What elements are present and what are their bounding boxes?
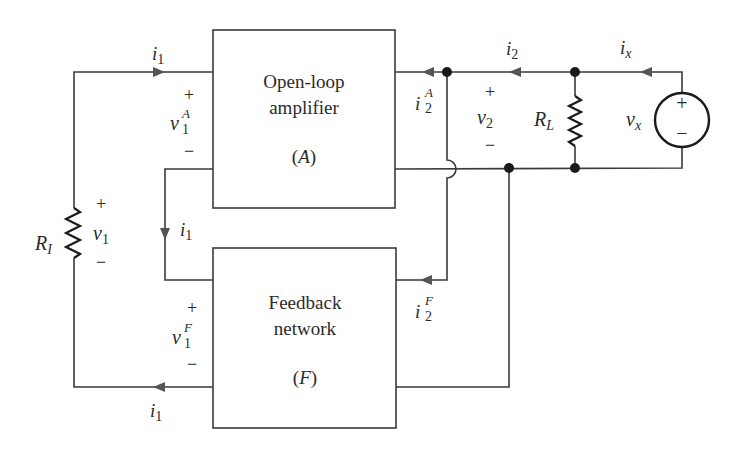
- v1f-minus-sign: −: [187, 354, 197, 374]
- node-dot: [570, 163, 580, 173]
- v1a-plus-sign: +: [184, 85, 194, 105]
- current-label-i1-bottom: i1: [150, 400, 162, 424]
- wire-inner-loop: [165, 169, 213, 280]
- wire-feedback-return: [396, 168, 509, 387]
- resistor-label-rl: RL: [533, 108, 554, 133]
- current-label-i1-top: i1: [152, 43, 164, 67]
- v2-minus-sign: −: [485, 135, 495, 155]
- amplifier-label-line2: amplifier: [269, 97, 339, 118]
- v1-minus-sign: −: [96, 252, 106, 272]
- current-label-i2a: iA2: [415, 85, 433, 116]
- current-label-i1-inner: i1: [180, 219, 192, 243]
- feedback-label-line1: Feedback: [269, 292, 342, 313]
- v1-plus-sign: +: [96, 194, 106, 214]
- amplifier-label-line1: Open-loop: [263, 71, 344, 92]
- current-label-ix: ix: [620, 37, 632, 61]
- current-label-i2: i2: [506, 38, 518, 62]
- wire-top-output: [395, 72, 682, 93]
- source-minus-sign: −: [676, 122, 687, 144]
- v1a-minus-sign: −: [184, 141, 194, 161]
- feedback-circuit-diagram: Open-loop amplifier (A) Feedback network…: [0, 0, 736, 452]
- resistor-label-ri: RI: [34, 232, 53, 257]
- feedback-symbol: (F): [293, 367, 317, 389]
- voltage-label-v1f: vF1: [172, 320, 193, 351]
- node-dot: [504, 163, 514, 173]
- wire-bottom-output: [395, 147, 682, 169]
- current-label-i2f: iF2: [415, 293, 434, 324]
- v1f-plus-sign: +: [187, 298, 197, 318]
- voltage-label-v2: v2: [477, 106, 493, 131]
- arrow-left-icon: [153, 382, 165, 392]
- amplifier-symbol: (A): [292, 146, 316, 168]
- arrow-right-icon: [153, 67, 165, 77]
- arrow-left-icon: [420, 275, 432, 285]
- node-dot: [570, 67, 580, 77]
- source-plus-sign: +: [676, 92, 687, 114]
- voltage-label-v1: v1: [93, 222, 109, 247]
- input-resistor-ri: [66, 208, 80, 258]
- arrow-left-icon: [509, 67, 521, 77]
- open-loop-amplifier-block: [213, 30, 395, 208]
- v2-plus-sign: +: [485, 82, 495, 102]
- arrow-left-icon: [640, 67, 652, 77]
- load-resistor-rl: [569, 96, 581, 146]
- arrow-left-icon: [422, 67, 434, 77]
- source-label-vx: vx: [626, 108, 642, 133]
- node-dot: [442, 67, 452, 77]
- voltage-label-v1a: vA1: [170, 106, 190, 137]
- arrow-down-icon: [160, 228, 170, 240]
- feedback-label-line2: network: [274, 318, 337, 339]
